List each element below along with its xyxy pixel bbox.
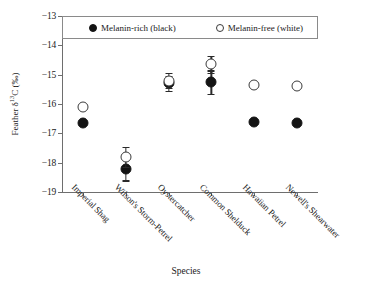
data-point-melanin-rich — [291, 118, 302, 129]
error-bar-cap — [123, 147, 130, 148]
x-axis-title: Species — [0, 266, 372, 276]
filled-circle-icon — [89, 24, 97, 32]
data-point-melanin-rich — [206, 77, 217, 88]
error-bar-cap — [208, 73, 215, 74]
y-axis-tick — [58, 192, 62, 193]
error-bar-cap — [123, 180, 130, 181]
y-axis-title-superscript: 13 — [8, 96, 15, 103]
y-axis-tick-label: −17 — [42, 128, 56, 138]
data-point-melanin-free — [121, 151, 132, 162]
x-axis-line — [62, 192, 318, 193]
open-circle-icon — [216, 24, 224, 32]
data-point-melanin-free — [206, 59, 217, 70]
data-point-melanin-free — [291, 81, 302, 92]
y-axis-tick — [58, 75, 62, 76]
y-axis-title: Feather δ13C (‰) — [8, 72, 20, 135]
y-axis-tick-label: −19 — [42, 187, 56, 197]
data-point-melanin-free — [249, 79, 260, 90]
error-bar-cap — [165, 91, 172, 92]
y-axis-title-text: Feather δ — [10, 102, 20, 135]
legend-item-melanin-rich: Melanin-rich (black) — [89, 23, 176, 33]
y-axis-tick — [58, 163, 62, 164]
y-axis-tick — [58, 45, 62, 46]
chart-legend: Melanin-rich (black) Melanin-free (white… — [62, 16, 318, 39]
y-axis-tick-label: −14 — [42, 40, 56, 50]
y-axis-tick-label: −13 — [42, 11, 56, 21]
y-axis-line — [62, 16, 63, 192]
data-point-melanin-free — [163, 75, 174, 86]
error-bar-cap — [165, 88, 172, 89]
legend-label-melanin-rich: Melanin-rich (black) — [101, 23, 176, 33]
y-axis-tick-label: −15 — [42, 70, 56, 80]
y-axis-tick — [58, 104, 62, 105]
error-bar-cap — [208, 94, 215, 95]
y-axis-tick-label: −18 — [42, 158, 56, 168]
y-axis-tick-label: −16 — [42, 99, 56, 109]
legend-label-melanin-free: Melanin-free (white) — [228, 23, 303, 33]
chart-container: Feather δ13C (‰) −13−14−15−16−17−18−19 I… — [0, 0, 372, 297]
y-axis-tick — [58, 133, 62, 134]
y-axis-title-tail: C (‰) — [10, 72, 20, 95]
data-point-melanin-free — [78, 101, 89, 112]
data-point-melanin-rich — [78, 118, 89, 129]
data-point-melanin-rich — [249, 116, 260, 127]
error-bar-cap — [208, 56, 215, 57]
plot-area: −13−14−15−16−17−18−19 — [62, 16, 318, 192]
legend-item-melanin-free: Melanin-free (white) — [216, 23, 303, 33]
error-bar-cap — [123, 167, 130, 168]
